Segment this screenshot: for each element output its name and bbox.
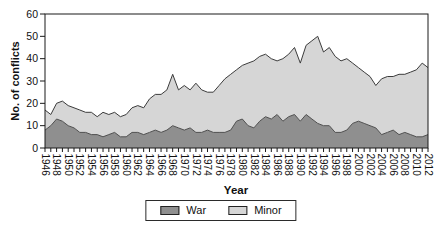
x-tick-label: 1990 (295, 154, 306, 177)
x-tick-label: 1968 (167, 154, 178, 177)
y-tick-label: 50 (26, 30, 38, 42)
x-tick-label: 2012 (423, 154, 434, 177)
x-tick-label: 1960 (121, 154, 132, 177)
x-tick-label: 2002 (365, 154, 376, 177)
x-tick-label: 1996 (330, 154, 341, 177)
y-tick-label: 10 (26, 119, 38, 131)
x-tick-label: 1984 (260, 154, 271, 177)
x-tick-label: 1978 (225, 154, 236, 177)
legend-label-minor: Minor (254, 204, 282, 217)
x-tick-label: 1982 (249, 154, 260, 177)
minor-swatch (228, 206, 247, 215)
legend: War Minor (145, 200, 296, 221)
y-axis-title: No. of conflicts (9, 41, 21, 120)
x-tick-label: 1988 (283, 154, 294, 177)
stacked-areas (45, 36, 428, 148)
x-tick-label: 1992 (307, 154, 318, 177)
legend-label-war: War (186, 204, 206, 217)
x-tick-label: 1980 (237, 154, 248, 177)
x-tick-label: 1956 (98, 154, 109, 177)
x-tick-label: 2010 (411, 154, 422, 177)
x-tick-label: 1986 (272, 154, 283, 177)
x-axis-title: Year (224, 184, 249, 196)
x-tick-label: 1954 (86, 154, 97, 177)
x-tick-label: 1948 (51, 154, 62, 177)
x-tick-label: 1970 (179, 154, 190, 177)
legend-item-minor: Minor (228, 204, 282, 217)
x-tick-label: 2008 (399, 154, 410, 177)
x-tick-label: 1994 (318, 154, 329, 177)
conflict-figure: 0102030405060194619481950195219541956195… (0, 0, 442, 233)
x-tick-label: 1966 (156, 154, 167, 177)
y-tick-label: 60 (26, 8, 38, 20)
x-tick-label: 1972 (191, 154, 202, 177)
x-tick-label: 1976 (214, 154, 225, 177)
conflict-chart-canvas: 0102030405060194619481950195219541956195… (0, 0, 442, 200)
x-tick-label: 1964 (144, 154, 155, 177)
x-tick-label: 1950 (63, 154, 74, 177)
legend-item-war: War (160, 204, 206, 217)
y-tick-label: 30 (26, 75, 38, 87)
y-tick-label: 0 (32, 142, 38, 154)
x-tick-label: 1962 (132, 154, 143, 177)
x-tick-label: 1998 (341, 154, 352, 177)
x-tick-label: 2000 (353, 154, 364, 177)
y-tick-label: 40 (26, 52, 38, 64)
x-tick-label: 1952 (74, 154, 85, 177)
x-tick-label: 2004 (376, 154, 387, 177)
war-swatch (160, 206, 179, 215)
x-tick-label: 1974 (202, 154, 213, 177)
x-tick-label: 1946 (40, 154, 51, 177)
x-tick-label: 1958 (109, 154, 120, 177)
y-tick-label: 20 (26, 97, 38, 109)
x-tick-label: 2006 (388, 154, 399, 177)
